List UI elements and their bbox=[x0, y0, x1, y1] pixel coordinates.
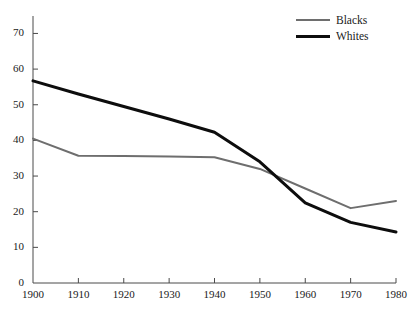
legend-line-swatch-blacks-icon bbox=[296, 19, 330, 21]
y-tick-label: 40 bbox=[2, 134, 24, 145]
y-tick-label: 70 bbox=[2, 27, 24, 38]
legend-label-whites: Whites bbox=[336, 30, 369, 43]
line-chart: 706050403020100 190019101920193019401950… bbox=[0, 0, 415, 322]
x-tick-label: 1920 bbox=[104, 289, 144, 300]
y-tick-label: 10 bbox=[2, 241, 24, 252]
x-tick-label: 1930 bbox=[149, 289, 189, 300]
y-tick-label: 50 bbox=[2, 99, 24, 110]
x-tick-label: 1910 bbox=[58, 289, 98, 300]
series-line-blacks bbox=[33, 139, 396, 209]
legend-item-whites: Whites bbox=[296, 28, 408, 44]
x-tick-label: 1950 bbox=[240, 289, 280, 300]
plot-area bbox=[0, 0, 415, 322]
y-tick-label: 0 bbox=[2, 277, 24, 288]
x-axis-ticks bbox=[78, 278, 396, 283]
x-tick-label: 1980 bbox=[376, 289, 415, 300]
legend-item-blacks: Blacks bbox=[296, 12, 408, 28]
axis-lines bbox=[33, 16, 396, 283]
legend-label-blacks: Blacks bbox=[336, 14, 367, 27]
x-tick-label: 1970 bbox=[331, 289, 371, 300]
chart-legend: Blacks Whites bbox=[296, 12, 408, 44]
legend-line-swatch-whites-icon bbox=[296, 35, 330, 38]
x-tick-label: 1960 bbox=[285, 289, 325, 300]
y-tick-label: 30 bbox=[2, 170, 24, 181]
y-tick-label: 20 bbox=[2, 206, 24, 217]
data-series-group bbox=[33, 81, 396, 232]
x-tick-label: 1900 bbox=[13, 289, 53, 300]
y-tick-label: 60 bbox=[2, 63, 24, 74]
x-tick-label: 1940 bbox=[195, 289, 235, 300]
